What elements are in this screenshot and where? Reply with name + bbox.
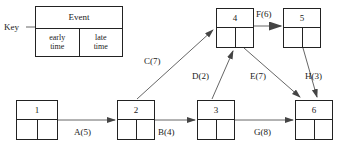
- node-1-late-time: [38, 120, 58, 139]
- node-2[interactable]: 2: [117, 100, 155, 140]
- node-6-early-time: [296, 120, 315, 139]
- node-6[interactable]: 6: [295, 100, 333, 140]
- node-4-late-time: [236, 28, 254, 47]
- edge-label-A: A(5): [74, 128, 91, 137]
- key-header-event: Event: [36, 7, 122, 29]
- edge-label-B: B(4): [158, 128, 175, 137]
- node-6-id: 6: [296, 101, 332, 120]
- node-1[interactable]: 1: [16, 100, 58, 140]
- node-3-id: 3: [198, 101, 234, 120]
- node-3[interactable]: 3: [197, 100, 235, 140]
- node-2-early-time: [118, 120, 137, 139]
- key-late-line2: time: [94, 43, 108, 52]
- edge-label-E: E(7): [250, 72, 266, 81]
- node-5-early-time: [284, 28, 303, 47]
- edge-label-F: F(6): [256, 10, 272, 19]
- node-4-times: [217, 28, 253, 47]
- node-4-id: 4: [217, 9, 253, 28]
- key-label: Key: [4, 23, 19, 32]
- node-1-times: [17, 120, 57, 139]
- edge-label-D: D(2): [192, 72, 209, 81]
- node-3-early-time: [198, 120, 217, 139]
- node-2-late-time: [137, 120, 155, 139]
- node-2-id: 2: [118, 101, 154, 120]
- node-5[interactable]: 5: [283, 8, 321, 48]
- node-5-id: 5: [284, 9, 320, 28]
- key-cell-early-time: early time: [36, 29, 80, 56]
- node-4-early-time: [217, 28, 236, 47]
- node-6-late-time: [315, 120, 333, 139]
- key-cells: early time late time: [36, 29, 122, 56]
- node-3-times: [198, 120, 234, 139]
- key-cell-late-time: late time: [80, 29, 123, 56]
- node-6-times: [296, 120, 332, 139]
- activity-network-diagram: Key Event early time late time 1 2 3: [0, 0, 348, 146]
- edge-label-C: C(7): [144, 57, 161, 66]
- node-3-late-time: [217, 120, 235, 139]
- node-2-times: [118, 120, 154, 139]
- node-1-early-time: [17, 120, 38, 139]
- node-4[interactable]: 4: [216, 8, 254, 48]
- edge-label-G: G(8): [254, 128, 271, 137]
- key-legend-box: Event early time late time: [35, 6, 123, 57]
- node-5-late-time: [303, 28, 321, 47]
- edge-label-H: H(3): [305, 72, 322, 81]
- key-early-line2: time: [50, 43, 64, 52]
- node-5-times: [284, 28, 320, 47]
- edge-D-arrow: [212, 51, 233, 99]
- node-1-id: 1: [17, 101, 57, 120]
